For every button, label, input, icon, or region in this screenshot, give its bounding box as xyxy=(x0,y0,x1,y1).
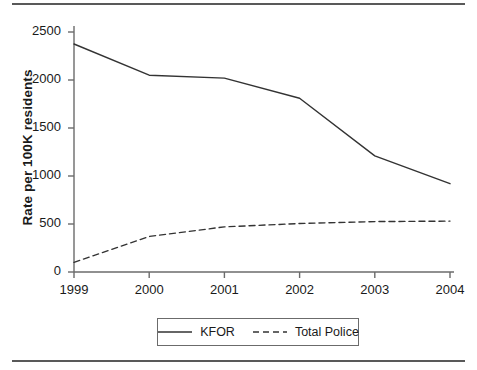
x-tick-label: 2000 xyxy=(114,282,184,297)
y-tick-label: 2000 xyxy=(5,71,61,86)
legend-label-total-police: Total Police xyxy=(295,325,359,339)
x-tick-label: 2001 xyxy=(189,282,259,297)
legend-line-solid-icon xyxy=(157,327,193,337)
x-tick-label: 2003 xyxy=(340,282,410,297)
legend-item-total-police: Total Police xyxy=(252,325,359,339)
x-tick-label: 1999 xyxy=(39,282,109,297)
legend-item-kfor: KFOR xyxy=(157,325,235,339)
y-tick-label: 2500 xyxy=(5,23,61,38)
chart-canvas xyxy=(0,0,477,370)
axes-group xyxy=(68,26,454,278)
y-tick-label: 1000 xyxy=(5,167,61,182)
figure: Rate per 100K residents 0500100015002000… xyxy=(0,0,477,370)
series-line-total-police xyxy=(74,221,450,262)
chart-legend: KFOR Total Police xyxy=(157,318,359,346)
legend-label-kfor: KFOR xyxy=(200,325,235,339)
y-tick-label: 0 xyxy=(5,263,61,278)
y-tick-label: 500 xyxy=(5,215,61,230)
x-tick-label: 2004 xyxy=(415,282,477,297)
legend-line-dashed-icon xyxy=(252,327,288,337)
series-group xyxy=(74,44,450,262)
y-tick-label: 1500 xyxy=(5,119,61,134)
series-line-kfor xyxy=(74,44,450,184)
x-tick-label: 2002 xyxy=(265,282,335,297)
